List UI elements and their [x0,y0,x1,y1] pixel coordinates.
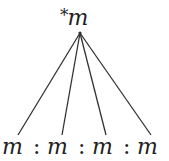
root-node-label: *m [60,2,104,31]
leaf-node-4: m [137,133,158,161]
leaf-node-2: m [47,133,68,161]
leaf-node-1: m [2,133,23,161]
separator-1: : [33,133,40,161]
root-label-text: m [68,5,89,30]
edge-4 [80,33,151,135]
tree-diagram: *m m : m : m : m [0,0,169,161]
separator-2: : [78,133,85,161]
separator-3: : [123,133,130,161]
edge-3 [80,33,106,135]
leaf-row: m : m : m : m [0,133,169,161]
leaf-node-3: m [92,133,113,161]
